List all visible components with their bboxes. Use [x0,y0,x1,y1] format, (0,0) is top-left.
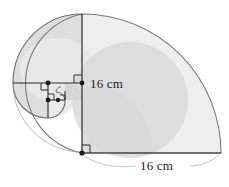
geometry-figure: 16 cm 16 cm [0,0,229,187]
dimension-label-horizontal: 16 cm [140,159,173,172]
vertex-dot-bottom [79,150,84,155]
vertex-dot-center-left [46,81,51,86]
dimension-leader-bottom-right [190,155,219,166]
mid-right-soft-disc [72,42,188,158]
vertex-dot-inner [56,98,60,102]
vertex-dot-center-right [80,81,85,86]
spiral-diagram-svg [0,0,229,187]
dimension-label-vertical: 16 cm [90,77,123,90]
vertex-dot-lower [46,98,51,103]
